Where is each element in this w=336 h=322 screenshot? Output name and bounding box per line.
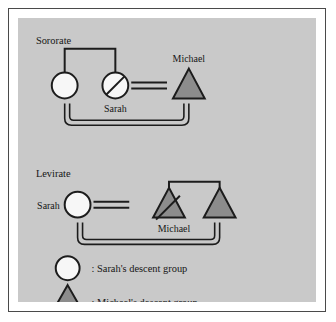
sororate-sister-node	[52, 73, 78, 99]
legend-sarah-label: : Sarah's descent group	[92, 263, 188, 274]
levirate-marriage-link	[93, 202, 129, 208]
sororate-sarah-node	[102, 73, 128, 99]
legend-michael-label: : Michael's descent group	[92, 297, 198, 302]
legend-triangle-icon	[52, 285, 84, 302]
legend-circle-icon	[56, 256, 80, 280]
levirate-diagram: Levirate Sarah	[36, 168, 236, 245]
levirate-michael-node	[153, 188, 185, 220]
levirate-michael-label: Michael	[158, 223, 191, 234]
levirate-sarah-label: Sarah	[37, 200, 60, 211]
sororate-michael-node	[173, 69, 205, 99]
sororate-michael-label: Michael	[173, 53, 206, 64]
levirate-brother-node	[204, 188, 236, 218]
sororate-title: Sororate	[36, 35, 72, 46]
legend-item-michael: : Michael's descent group	[52, 285, 198, 302]
legend-item-sarah: : Sarah's descent group	[56, 256, 188, 280]
levirate-descent-bracket	[78, 223, 220, 245]
figure-panel: Sororate Sarah	[18, 18, 316, 302]
kinship-diagram: Sororate Sarah	[18, 18, 316, 302]
levirate-sarah-node	[65, 192, 91, 218]
sororate-marriage-link	[131, 83, 167, 89]
figure-frame: Sororate Sarah	[8, 8, 326, 312]
sororate-sibling-link	[65, 49, 116, 73]
sororate-sarah-label: Sarah	[104, 103, 127, 114]
sororate-diagram: Sororate Sarah	[36, 35, 205, 125]
levirate-title: Levirate	[36, 168, 71, 179]
legend: : Sarah's descent group : Michael's desc…	[52, 256, 198, 302]
sororate-descent-bracket	[65, 103, 189, 125]
